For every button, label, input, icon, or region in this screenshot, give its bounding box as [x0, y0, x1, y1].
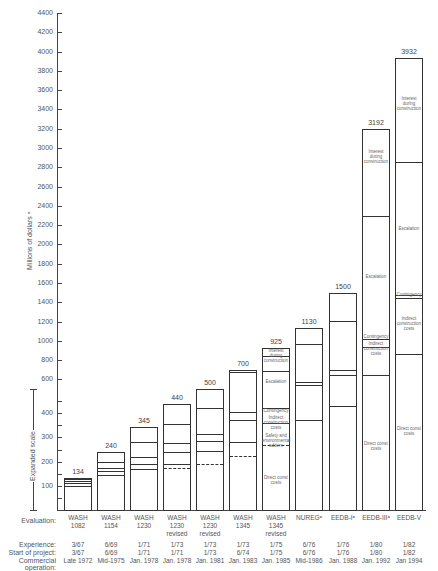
segment-boundary — [330, 370, 356, 371]
segment-boundary — [296, 420, 322, 421]
segment-label: Escalation — [262, 379, 290, 384]
segment-boundary — [98, 462, 124, 463]
segment-boundary-dashed — [164, 468, 190, 469]
bar-10 — [395, 58, 423, 511]
y-tick — [58, 401, 62, 402]
segment-label: Direct const costs — [362, 441, 390, 451]
segment-boundary-dashed — [197, 464, 223, 465]
bar-total-label: 240 — [91, 442, 131, 449]
segment-boundary — [131, 457, 157, 458]
evaluation-name: EEDB-V — [389, 514, 429, 522]
segment-boundary — [396, 298, 422, 299]
y-tick — [58, 379, 62, 380]
segment-boundary — [363, 375, 389, 376]
y-tick — [58, 486, 62, 487]
y-tick-label: 3000 — [23, 144, 53, 151]
bar-1 — [97, 452, 125, 511]
bar-0 — [64, 478, 92, 511]
y-tick — [58, 283, 62, 284]
y-tick-label: 800 — [23, 356, 53, 363]
y-tick-label: 4000 — [23, 48, 53, 55]
y-tick — [58, 462, 62, 463]
segment-boundary — [98, 475, 124, 476]
bar-total-label: 440 — [157, 394, 197, 401]
row-label-start: Start of project: — [0, 549, 56, 556]
bar-7 — [295, 328, 323, 511]
y-axis-line — [57, 13, 58, 510]
y-axis-title: Millions of dollars ᵃ — [26, 212, 33, 270]
segment-boundary — [65, 486, 91, 487]
y-tick — [58, 13, 62, 14]
segment-boundary — [98, 468, 124, 469]
segment-label: Safety and environmental adders — [262, 433, 290, 448]
expanded-scale-label: Expanded scale — [29, 430, 36, 482]
bar-8 — [329, 293, 357, 511]
bar-3 — [163, 404, 191, 511]
y-tick — [58, 187, 62, 188]
y-tick — [58, 129, 62, 130]
y-tick — [58, 109, 62, 110]
segment-boundary — [197, 434, 223, 435]
segment-boundary — [263, 371, 289, 372]
y-tick-label: 200 — [23, 458, 53, 465]
y-tick — [58, 206, 62, 207]
y-tick — [58, 52, 62, 53]
segment-boundary — [230, 442, 256, 443]
bar-total-label: 500 — [190, 379, 230, 386]
y-tick-label: 2800 — [23, 163, 53, 170]
bar-total-label: 1500 — [323, 283, 363, 290]
segment-boundary — [230, 412, 256, 413]
y-tick — [58, 148, 62, 149]
segment-boundary — [65, 483, 91, 484]
bar-total-label: 3192 — [356, 119, 396, 126]
y-tick — [58, 225, 62, 226]
y-tick — [58, 341, 62, 342]
segment-boundary — [296, 382, 322, 383]
row-label-commercial: Commercial operation: — [0, 557, 56, 571]
y-tick — [58, 498, 62, 499]
bar-2 — [130, 427, 158, 511]
bar-total-label: 134 — [58, 468, 98, 475]
segment-boundary — [164, 443, 190, 444]
bar-9 — [362, 129, 390, 511]
segment-boundary — [230, 372, 256, 373]
y-tick — [58, 425, 62, 426]
segment-boundary — [131, 464, 157, 465]
y-tick-label: 3600 — [23, 86, 53, 93]
y-tick-label: 4200 — [23, 28, 53, 35]
row-label-evaluation: Evaluation: — [0, 517, 56, 524]
segment-label: Direct const costs — [262, 475, 290, 485]
y-tick — [58, 322, 62, 323]
segment-boundary — [197, 441, 223, 442]
y-tick — [58, 167, 62, 168]
bar-4 — [196, 389, 224, 511]
y-tick-label: 4400 — [23, 9, 53, 16]
segment-boundary — [230, 420, 256, 421]
segment-boundary — [131, 469, 157, 470]
segment-label: Contingency — [395, 292, 423, 297]
segment-boundary — [197, 408, 223, 409]
row-label-experience: Experience: — [0, 541, 56, 548]
y-tick — [58, 264, 62, 265]
y-tick-label: 2400 — [23, 202, 53, 209]
segment-boundary — [197, 451, 223, 452]
y-tick-label: 2600 — [23, 183, 53, 190]
y-tick-label: 600 — [23, 375, 53, 382]
segment-label: Indirect construction costs — [262, 415, 290, 430]
segment-boundary — [296, 385, 322, 386]
segment-boundary — [396, 354, 422, 355]
y-tick — [58, 244, 62, 245]
y-tick — [58, 360, 62, 361]
y-tick-label: 1200 — [23, 318, 53, 325]
segment-label: Escalation — [395, 226, 423, 231]
y-tick-label: 3200 — [23, 125, 53, 132]
segment-label: Contingency — [362, 334, 390, 339]
y-tick — [58, 90, 62, 91]
segment-label: Direct const costs — [395, 426, 423, 436]
segment-label: Escalation — [362, 274, 390, 279]
y-tick — [58, 302, 62, 303]
y-tick-label: 3400 — [23, 105, 53, 112]
segment-boundary — [65, 481, 91, 482]
segment-boundary — [65, 479, 91, 480]
